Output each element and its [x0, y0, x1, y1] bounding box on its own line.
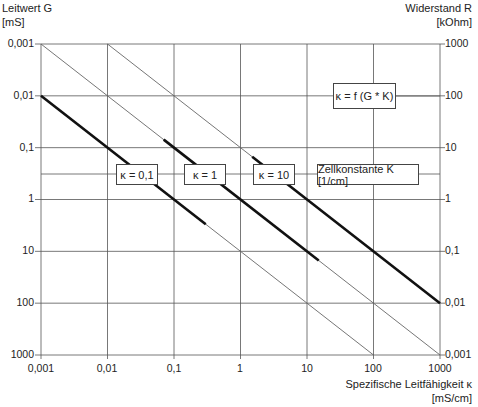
legend-k-10: κ = 10: [253, 164, 295, 185]
y-left-tick: 1: [0, 192, 34, 204]
left-axis-unit: [mS]: [2, 16, 25, 29]
y-left-tick: 0,01: [0, 89, 34, 101]
legend-title-box: Zellkonstante K [1/cm]: [317, 164, 419, 185]
y-right-tick: 1000: [445, 37, 468, 49]
y-left-tick: 1000: [0, 348, 34, 360]
y-left-tick: 100: [0, 296, 34, 308]
legend-k-1: κ = 1: [184, 164, 226, 185]
x-tick: 1000: [420, 362, 460, 374]
x-tick: 0,01: [87, 362, 127, 374]
x-tick: 0,1: [154, 362, 194, 374]
y-right-tick: 0,1: [445, 244, 460, 256]
formula-box: κ = f (G * K): [333, 83, 396, 109]
x-axis-title: Spezifische Leitfähigkeit κ: [345, 378, 472, 391]
legend-k-0-1: κ = 0,1: [116, 164, 158, 185]
y-right-tick: 10: [445, 141, 457, 153]
x-tick: 0,001: [21, 362, 61, 374]
y-right-tick: 0,001: [445, 348, 471, 360]
x-axis-unit: [mS/cm]: [432, 392, 472, 405]
y-right-tick: 0,01: [445, 296, 465, 308]
right-axis-title: Widerstand R: [405, 2, 472, 15]
x-tick: 100: [353, 362, 393, 374]
x-tick: 10: [287, 362, 327, 374]
chart-canvas: [0, 0, 478, 407]
y-right-tick: 1: [445, 192, 451, 204]
x-tick: 1: [220, 362, 260, 374]
y-right-tick: 100: [445, 89, 463, 101]
left-axis-title: Leitwert G: [2, 2, 52, 15]
y-left-tick: 0,001: [0, 37, 34, 49]
y-left-tick: 0,1: [0, 141, 34, 153]
y-left-tick: 10: [0, 244, 34, 256]
right-axis-unit: [kOhm]: [437, 16, 472, 29]
